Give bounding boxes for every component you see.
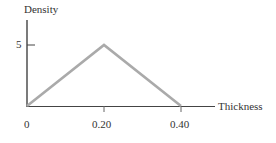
chart-plot bbox=[0, 0, 276, 143]
x-tick-label-0: 0 bbox=[24, 118, 30, 130]
x-axis-label: Thickness bbox=[218, 100, 263, 112]
x-tick-label-020: 0.20 bbox=[92, 118, 111, 130]
x-tick-label-040: 0.40 bbox=[170, 118, 189, 130]
y-axis-label: Density bbox=[24, 3, 58, 15]
y-tick-label-5: 5 bbox=[16, 38, 22, 50]
density-line bbox=[27, 45, 181, 106]
